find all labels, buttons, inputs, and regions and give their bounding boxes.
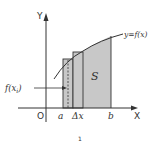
origin-label: O [37, 111, 44, 121]
area-s-label: S [91, 70, 99, 83]
delta-x-label: Δx [71, 111, 84, 121]
x-axis-arrow-icon [131, 106, 138, 111]
y-axis-label: Y [36, 11, 43, 21]
figure-caption: 1 [78, 135, 82, 142]
fxi-label: f(xi) [4, 83, 22, 94]
point-b-label: b [108, 111, 114, 121]
rectangle-1 [63, 59, 73, 108]
curve-label: y=f(x) [123, 30, 147, 39]
y-axis-arrow-icon [44, 13, 49, 21]
rectangle-2 [73, 52, 83, 108]
x-axis-label: X [134, 111, 140, 121]
riemann-sum-diagram: Y X O a Δx b y=f(x) S f(xi) 1 [0, 0, 159, 143]
point-a-label: a [58, 111, 63, 121]
